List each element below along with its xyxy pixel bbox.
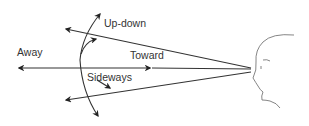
toward-label: Toward xyxy=(130,50,164,61)
face-profile-icon xyxy=(253,35,294,108)
sideways-label: Sideways xyxy=(87,72,132,83)
up-down-arc-top xyxy=(80,14,100,60)
up-down-label: Up-down xyxy=(104,18,146,29)
motion-directions-diagram: Up-down Away Toward Sideways xyxy=(0,0,309,126)
away-label: Away xyxy=(17,47,43,58)
diagram-graphics xyxy=(0,0,309,126)
small-up-arrow xyxy=(81,39,96,54)
central-sight-line xyxy=(152,68,251,69)
